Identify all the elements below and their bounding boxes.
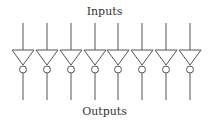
- inversion-bubble: [115, 66, 122, 73]
- buffer-triangle: [60, 50, 82, 65]
- inversion-bubble: [139, 66, 146, 73]
- inversion-bubble: [187, 66, 194, 73]
- inversion-bubble: [163, 66, 170, 73]
- inverter-gate: [60, 23, 82, 100]
- inverter-array-diagram: Inputs Outputs: [0, 0, 209, 125]
- inverter-gate: [84, 23, 106, 100]
- inverter-gate: [12, 23, 34, 100]
- inverter-gate: [36, 23, 58, 100]
- inverter-gate: [107, 23, 129, 100]
- buffer-triangle: [179, 50, 201, 65]
- buffer-triangle: [155, 50, 177, 65]
- inversion-bubble: [68, 66, 75, 73]
- inversion-bubble: [92, 66, 99, 73]
- inverter-gate: [179, 23, 201, 100]
- outputs-label: Outputs: [0, 105, 209, 118]
- buffer-triangle: [12, 50, 34, 65]
- inversion-bubble: [44, 66, 51, 73]
- buffer-triangle: [36, 50, 58, 65]
- buffer-triangle: [131, 50, 153, 65]
- inverter-gate: [131, 23, 153, 100]
- buffer-triangle: [84, 50, 106, 65]
- buffer-triangle: [107, 50, 129, 65]
- inverter-gate: [155, 23, 177, 100]
- inversion-bubble: [20, 66, 27, 73]
